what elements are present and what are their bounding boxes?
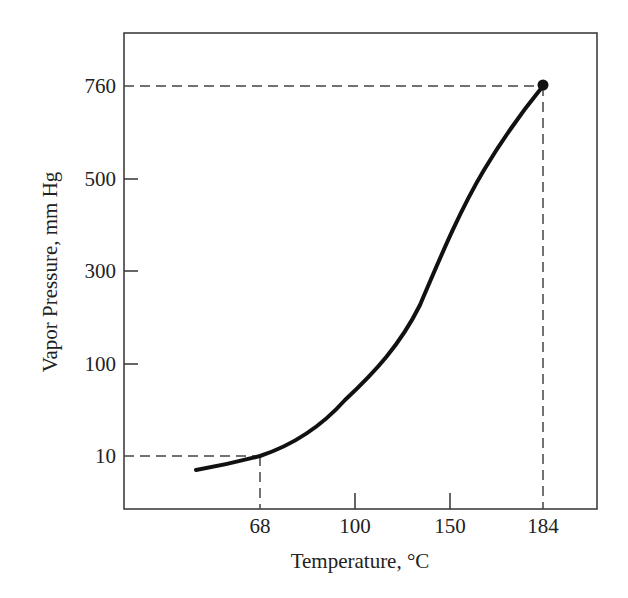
x-tick-labels: 68 100 150 184 [250,514,560,538]
vapor-pressure-chart: 760 500 300 100 10 68 100 150 184 Temper… [0,0,628,598]
x-axis-title: Temperature, °C [291,549,430,573]
y-tick-labels: 760 500 300 100 10 [85,74,117,468]
guide-lines [124,86,543,509]
x-tick-marks [355,493,450,509]
y-tick-marks [124,179,138,364]
x-tick-100: 100 [339,514,371,538]
y-tick-100: 100 [85,352,117,376]
x-tick-184: 184 [527,514,559,538]
y-tick-300: 300 [85,259,117,283]
y-tick-760: 760 [85,74,117,98]
boiling-point-marker [538,80,549,91]
y-tick-500: 500 [85,167,117,191]
y-axis-title: Vapor Pressure, mm Hg [38,171,62,372]
y-tick-10: 10 [95,444,116,468]
x-tick-150: 150 [434,514,466,538]
x-tick-68: 68 [250,514,271,538]
vapor-pressure-curve [196,86,543,470]
